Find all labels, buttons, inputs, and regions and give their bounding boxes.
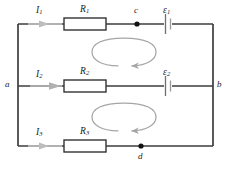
label-resistor-1-subscript: 1	[86, 7, 89, 14]
label-resistor-3: R3	[80, 127, 89, 137]
label-resistor-1: R1	[80, 5, 89, 15]
label-current-2-subscript: 2	[39, 72, 42, 79]
resistor-r1-body	[64, 18, 106, 30]
label-current-1: I1	[36, 6, 43, 16]
current-arrow-1-icon	[39, 21, 49, 28]
label-resistor-3-subscript: 3	[86, 129, 89, 136]
label-current-3: I3	[36, 128, 43, 138]
label-resistor-2: R2	[80, 67, 89, 77]
loop-arrow-lower-icon	[92, 103, 156, 131]
resistor-r2-body	[64, 80, 106, 92]
emf-source-group	[166, 14, 171, 96]
circuit-diagram: I1 I2 I3 R1 R2 R3 ε1 ε2 a b c d	[0, 0, 227, 170]
label-node-c: c	[134, 6, 138, 15]
label-emf-1-subscript: 1	[167, 8, 170, 15]
label-node-b: b	[217, 80, 222, 89]
current-arrow-2-icon	[49, 82, 61, 90]
label-resistor-2-subscript: 2	[86, 69, 89, 76]
wire-group	[18, 24, 213, 146]
label-current-2: I2	[36, 70, 43, 80]
label-emf-2: ε2	[163, 68, 170, 78]
resistor-r3-body	[64, 140, 106, 152]
junction-d-dot	[138, 143, 143, 148]
label-resistor-2-symbol: R	[80, 66, 86, 76]
loop-arrow-upper-icon	[92, 38, 156, 66]
junction-c-dot	[134, 21, 139, 26]
label-emf-2-subscript: 2	[167, 70, 170, 77]
label-resistor-1-symbol: R	[80, 4, 86, 14]
circuit-svg	[0, 0, 227, 170]
label-emf-1: ε1	[163, 6, 170, 16]
label-current-1-subscript: 1	[39, 8, 42, 15]
label-node-a: a	[5, 80, 10, 89]
label-node-d: d	[138, 152, 143, 161]
label-current-3-subscript: 3	[39, 130, 42, 137]
current-arrow-3-icon	[39, 143, 49, 150]
label-resistor-3-symbol: R	[80, 126, 86, 136]
